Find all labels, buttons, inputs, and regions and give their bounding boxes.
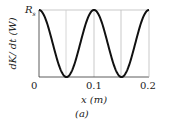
x-tick-0: 0 bbox=[31, 80, 37, 91]
x-tick-0.1: 0.1 bbox=[86, 80, 102, 91]
x-tick-0.2: 0.2 bbox=[140, 80, 156, 91]
figure-caption: (a) bbox=[75, 108, 89, 119]
x-axis-label: x (m) bbox=[81, 94, 107, 105]
y-tick-rs: Rs bbox=[25, 4, 36, 17]
y-axis-label: dK/ dt (W) bbox=[7, 17, 18, 69]
